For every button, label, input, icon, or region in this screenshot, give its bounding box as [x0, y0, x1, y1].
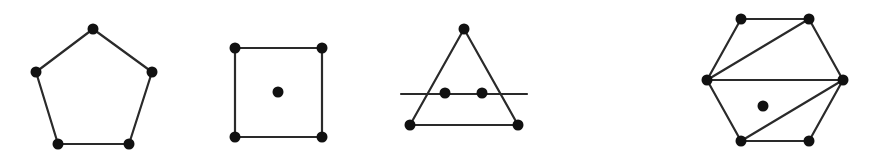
vertex-dot — [459, 24, 470, 35]
edge — [464, 29, 518, 125]
vertex-dot — [702, 75, 713, 86]
pentagon-figure — [31, 24, 158, 150]
vertex-dot — [147, 67, 158, 78]
vertex-dot — [230, 43, 241, 54]
vertex-dot — [230, 132, 241, 143]
edge — [809, 19, 843, 80]
edge — [707, 80, 741, 141]
edge — [93, 29, 152, 72]
vertex-dot — [317, 132, 328, 143]
polygon-diagrams — [0, 0, 870, 158]
edge — [36, 29, 93, 72]
edge — [741, 80, 843, 141]
vertex-dot — [513, 120, 524, 131]
point-dot — [758, 101, 769, 112]
point-dot — [477, 88, 488, 99]
edge — [410, 29, 464, 125]
vertex-dot — [405, 120, 416, 131]
vertex-dot — [88, 24, 99, 35]
square-figure — [230, 43, 328, 143]
vertex-dot — [804, 136, 815, 147]
vertex-dot — [31, 67, 42, 78]
triangle-figure — [401, 24, 527, 131]
point-dot — [273, 87, 284, 98]
vertex-dot — [53, 139, 64, 150]
vertex-dot — [317, 43, 328, 54]
vertex-dot — [838, 75, 849, 86]
vertex-dot — [736, 136, 747, 147]
vertex-dot — [124, 139, 135, 150]
point-dot — [440, 88, 451, 99]
edge — [36, 72, 58, 144]
vertex-dot — [736, 14, 747, 25]
vertex-dot — [804, 14, 815, 25]
hexagon-figure — [702, 14, 849, 147]
edge — [129, 72, 152, 144]
edge — [707, 19, 809, 80]
